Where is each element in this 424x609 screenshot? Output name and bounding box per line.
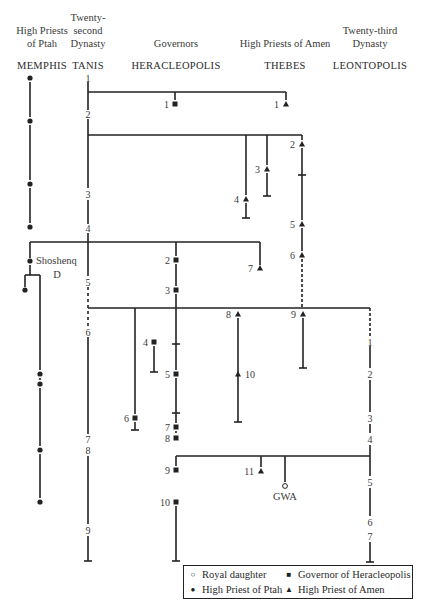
genealogy-diagram: 1234567891234567123456789101234567891011… xyxy=(0,0,424,609)
open-circle-icon: ○ xyxy=(188,570,198,579)
amen-triangle-icon xyxy=(299,252,305,258)
amen-priest-number: 8 xyxy=(226,309,231,320)
governor-square-icon xyxy=(174,288,179,293)
legend-label: Governor of Heracleopolis xyxy=(298,569,411,580)
leontopolis-king-number: 7 xyxy=(368,531,373,542)
governor-square-icon xyxy=(174,436,179,441)
tanis-king-number: 7 xyxy=(86,434,91,445)
tanis-king-number: 8 xyxy=(86,445,91,456)
shoshenq-label: Shoshenq xyxy=(36,255,78,266)
governor-number: 2 xyxy=(165,255,170,266)
governor-number: 4 xyxy=(143,337,148,348)
tanis-king-number: 6 xyxy=(86,327,91,338)
leontopolis-king-number: 4 xyxy=(368,434,373,445)
amen-priest-number: 3 xyxy=(255,164,260,175)
governor-square-icon xyxy=(174,500,179,505)
amen-priest-number: 10 xyxy=(245,369,255,380)
governor-number: 1 xyxy=(164,99,169,110)
square-icon: ■ xyxy=(284,570,294,579)
governor-square-icon xyxy=(174,258,179,263)
legend-label: High Priest of Amen xyxy=(298,584,385,595)
amen-priest-number: 5 xyxy=(290,219,295,230)
governor-square-icon xyxy=(152,340,157,345)
amen-triangle-icon xyxy=(235,371,241,377)
amen-triangle-icon xyxy=(243,196,249,202)
governor-number: 10 xyxy=(160,497,170,508)
ptah-dot-icon xyxy=(37,499,42,504)
gwa-label: GWA xyxy=(273,491,297,502)
amen-triangle-icon xyxy=(258,468,264,474)
tanis-king-number: 1 xyxy=(86,73,91,84)
tanis-king-number: 9 xyxy=(86,525,91,536)
legend: ○ Royal daughter ■ Governor of Heracleop… xyxy=(183,565,413,599)
amen-priest-number: 9 xyxy=(291,309,296,320)
leontopolis-king-number: 3 xyxy=(368,413,373,424)
governor-number: 3 xyxy=(165,285,170,296)
amen-triangle-icon xyxy=(299,221,305,227)
governor-number: 7 xyxy=(165,422,170,433)
ptah-dot-icon xyxy=(22,287,27,292)
ptah-dot-icon xyxy=(27,75,32,80)
legend-governor: ■ Governor of Heracleopolis xyxy=(284,569,411,580)
ptah-dot-icon xyxy=(27,181,32,186)
governor-square-icon xyxy=(133,416,138,421)
leontopolis-king-number: 2 xyxy=(368,369,373,380)
legend-amen: ▲ High Priest of Amen xyxy=(284,584,385,595)
ptah-dot-icon xyxy=(37,371,42,376)
legend-royal-daughter: ○ Royal daughter xyxy=(188,569,266,580)
governor-number: 9 xyxy=(165,465,170,476)
tanis-king-number: 3 xyxy=(86,189,91,200)
governor-number: 8 xyxy=(165,433,170,444)
governor-number: 5 xyxy=(165,369,170,380)
tanis-king-number: 4 xyxy=(86,223,91,234)
leontopolis-king-number: 1 xyxy=(368,337,373,348)
ptah-dot-icon xyxy=(27,224,32,229)
royal-daughter-icon xyxy=(283,484,288,489)
amen-priest-number: 7 xyxy=(248,263,253,274)
ptah-dot-icon xyxy=(37,381,42,386)
amen-priest-number: 2 xyxy=(290,139,295,150)
governor-square-icon xyxy=(174,425,179,430)
amen-priest-number: 11 xyxy=(244,466,254,477)
ptah-dot-icon xyxy=(37,447,42,452)
amen-triangle-icon xyxy=(283,101,289,107)
leontopolis-king-number: 6 xyxy=(368,517,373,528)
tanis-king-number: 2 xyxy=(86,109,91,120)
amen-triangle-icon xyxy=(300,311,306,317)
leontopolis-king-number: 5 xyxy=(368,477,373,488)
governor-square-icon xyxy=(174,468,179,473)
ptah-dot-icon xyxy=(27,258,32,263)
amen-triangle-icon xyxy=(235,311,241,317)
legend-ptah: ● High Priest of Ptah xyxy=(188,584,282,595)
shoshenq-d-label: D xyxy=(53,269,61,280)
filled-circle-icon: ● xyxy=(188,585,198,594)
amen-triangle-icon xyxy=(264,166,270,172)
legend-label: High Priest of Ptah xyxy=(202,584,282,595)
legend-label: Royal daughter xyxy=(202,569,266,580)
amen-triangle-icon xyxy=(257,265,263,271)
governor-square-icon xyxy=(174,372,179,377)
tanis-king-number: 5 xyxy=(86,277,91,288)
ptah-dot-icon xyxy=(27,118,32,123)
governor-square-icon xyxy=(173,102,178,107)
amen-priest-number: 1 xyxy=(274,99,279,110)
amen-triangle-icon xyxy=(299,141,305,147)
amen-priest-number: 6 xyxy=(290,250,295,261)
governor-number: 6 xyxy=(124,413,129,424)
amen-priest-number: 4 xyxy=(234,194,239,205)
triangle-icon: ▲ xyxy=(284,585,294,594)
